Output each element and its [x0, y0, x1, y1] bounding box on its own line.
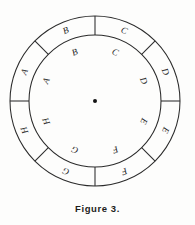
concentric-wheel-diagram: ABCDEFGH ABCDEFGH	[0, 0, 195, 225]
center-dot	[93, 99, 97, 103]
outer-sector-label-h: H	[18, 124, 31, 136]
outer-sector-label-c: C	[119, 25, 129, 37]
figure-3-container: ABCDEFGH ABCDEFGH Figure 3.	[0, 0, 195, 225]
outer-sector-label-b: B	[61, 25, 70, 37]
outer-sector-label-f: F	[119, 165, 129, 177]
inner-disc-label-h: H	[40, 115, 53, 127]
inner-disc-label-f: F	[110, 144, 120, 156]
inner-disc-label-g: G	[69, 144, 79, 156]
inner-disc-label-a: A	[40, 76, 52, 86]
inner-disc-label-e: E	[138, 116, 150, 126]
outer-sector-label-d: D	[159, 66, 171, 77]
figure-caption: Figure 3.	[0, 203, 195, 214]
outer-sector-label-e: E	[160, 125, 172, 135]
ring-divider-5	[35, 148, 48, 161]
ring-divider-1	[142, 41, 155, 54]
ring-divider-7	[35, 41, 48, 54]
inner-disc-label-b: B	[70, 46, 79, 58]
outer-sector-label-a: A	[18, 67, 30, 77]
ring-divider-3	[142, 148, 155, 161]
inner-disc-label-c: C	[110, 46, 120, 58]
outer-sector-label-g: G	[60, 166, 70, 178]
inner-disc-label-d: D	[138, 75, 150, 86]
